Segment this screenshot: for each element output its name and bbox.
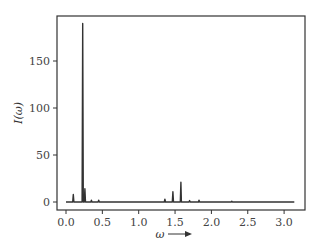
spectrum-chart: 0.00.51.01.52.02.53.0 050100150 I(ω) ω [0, 0, 318, 251]
y-tick-label: 0 [43, 196, 50, 209]
y-tick-label: 50 [36, 149, 50, 162]
x-tick-label: 3.0 [275, 216, 293, 229]
x-tick-label: 1.0 [130, 216, 148, 229]
x-tick-label: 1.5 [166, 216, 184, 229]
plot-frame [57, 16, 305, 210]
arrow-right-icon [185, 231, 192, 237]
x-axis-label: ω [156, 228, 165, 241]
intensity-curve [66, 23, 294, 202]
x-axis-ticks: 0.00.51.01.52.02.53.0 [57, 210, 293, 229]
y-tick-label: 150 [29, 55, 50, 68]
x-tick-label: 2.0 [203, 216, 221, 229]
y-axis-label: I(ω) [12, 102, 25, 125]
y-tick-label: 100 [29, 102, 50, 115]
x-axis-label-group: ω [156, 228, 192, 241]
y-axis-ticks: 050100150 [29, 55, 57, 209]
x-tick-label: 0.0 [57, 216, 75, 229]
x-tick-label: 2.5 [239, 216, 257, 229]
x-tick-label: 0.5 [94, 216, 112, 229]
